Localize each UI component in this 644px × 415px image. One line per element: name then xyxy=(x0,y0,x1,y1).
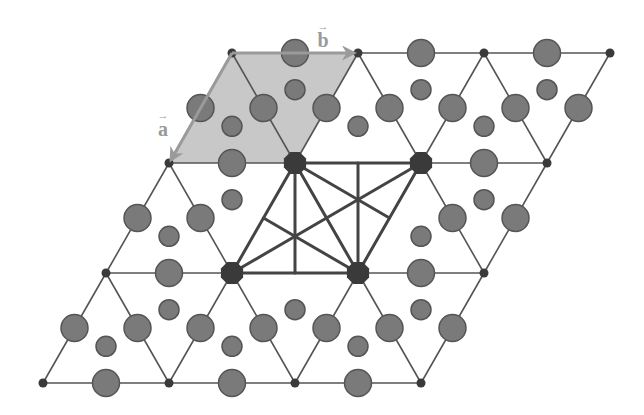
large-atom xyxy=(408,40,435,67)
lattice-node xyxy=(102,269,111,278)
supercell-line xyxy=(232,163,421,273)
large-atom xyxy=(93,370,120,397)
large-atom xyxy=(313,95,340,122)
large-atom xyxy=(439,95,466,122)
large-atom xyxy=(313,315,340,342)
large-atom xyxy=(534,40,561,67)
small-atom xyxy=(159,226,179,246)
small-atom xyxy=(96,336,116,356)
supercell-node xyxy=(347,262,369,284)
supercell-node xyxy=(284,152,306,174)
large-atom xyxy=(345,370,372,397)
large-atom xyxy=(408,260,435,287)
lattice-node xyxy=(39,379,48,388)
vector-a-label: → a xyxy=(155,111,171,139)
small-atom xyxy=(537,80,557,100)
lattice-node xyxy=(291,379,300,388)
large-atom xyxy=(219,370,246,397)
vector-b-letter: b xyxy=(315,30,331,50)
large-atom xyxy=(439,205,466,232)
small-atom xyxy=(285,300,305,320)
small-atom xyxy=(474,190,494,210)
lattice-diagram xyxy=(0,0,644,415)
lattice-node xyxy=(480,49,489,58)
large-atom xyxy=(376,95,403,122)
large-atom xyxy=(439,315,466,342)
large-atom xyxy=(471,150,498,177)
small-atom xyxy=(411,80,431,100)
small-atom xyxy=(474,116,494,136)
large-atom xyxy=(250,95,277,122)
lattice-node xyxy=(354,49,363,58)
large-atom xyxy=(502,95,529,122)
lattice-node xyxy=(480,269,489,278)
small-atom xyxy=(411,300,431,320)
small-atom xyxy=(285,80,305,100)
small-atom xyxy=(159,300,179,320)
vector-b-label: → b xyxy=(315,22,331,50)
small-atom xyxy=(222,336,242,356)
large-atom xyxy=(376,315,403,342)
lattice-node xyxy=(165,379,174,388)
large-atom xyxy=(124,315,151,342)
lattice-node xyxy=(606,49,615,58)
small-atom xyxy=(411,226,431,246)
vector-a-letter: a xyxy=(155,119,171,139)
lattice-node xyxy=(417,379,426,388)
lattice-node xyxy=(543,159,552,168)
large-atom xyxy=(187,315,214,342)
large-atom xyxy=(187,205,214,232)
large-atom xyxy=(565,95,592,122)
supercell-lines-layer xyxy=(232,163,421,273)
small-atom xyxy=(222,116,242,136)
large-atom xyxy=(61,315,88,342)
supercell-node xyxy=(410,152,432,174)
small-atom xyxy=(222,190,242,210)
small-atom xyxy=(348,336,368,356)
large-atom xyxy=(250,315,277,342)
large-atom xyxy=(502,205,529,232)
supercell-node xyxy=(221,262,243,284)
large-atom xyxy=(156,260,183,287)
small-atom xyxy=(348,116,368,136)
large-atom xyxy=(219,150,246,177)
large-atom xyxy=(124,205,151,232)
